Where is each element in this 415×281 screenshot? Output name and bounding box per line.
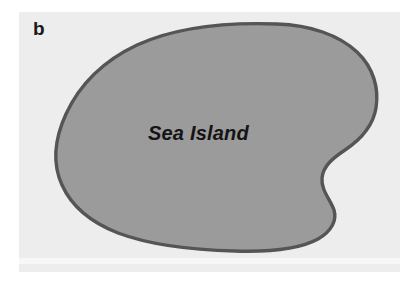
sea-island-text-label: Sea Island xyxy=(148,123,249,143)
figure-panel-b: b Sea Island xyxy=(0,0,415,281)
panel-letter-label: b xyxy=(33,19,45,38)
